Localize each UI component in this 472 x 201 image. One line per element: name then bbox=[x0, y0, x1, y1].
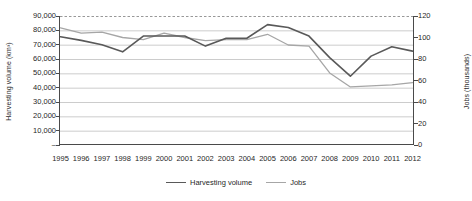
y-axis-left-line bbox=[59, 16, 60, 145]
y-axis-right-tick-mark bbox=[414, 123, 418, 124]
y-axis-left-tick-label: 80,000 bbox=[12, 25, 56, 34]
series-line-harvesting-volume bbox=[61, 25, 413, 77]
y-axis-right-tick-label: 40 bbox=[418, 97, 458, 106]
chart-svg bbox=[60, 16, 413, 145]
y-axis-left-tick-mark bbox=[56, 30, 60, 31]
y-axis-right-tick-mark bbox=[414, 102, 418, 103]
y-axis-left-tick-label: 20,000 bbox=[12, 111, 56, 120]
legend-line-icon bbox=[266, 182, 286, 183]
series-line-jobs bbox=[61, 28, 413, 87]
y-axis-left-tick-mark bbox=[56, 102, 60, 103]
y-axis-right-tick-mark bbox=[414, 145, 418, 146]
y-axis-left-tick-label: 40,000 bbox=[12, 83, 56, 92]
y-axis-right-ticks: 020406080100120 bbox=[418, 0, 458, 201]
y-axis-left-title: Harvesting volume (km³) bbox=[5, 30, 12, 134]
legend-item-label: Jobs bbox=[290, 178, 306, 187]
y-axis-left-tick-mark bbox=[56, 87, 60, 88]
x-axis-tick-label: 2012 bbox=[400, 154, 426, 163]
legend-item[interactable]: Jobs bbox=[266, 178, 306, 187]
y-axis-right-tick-label: 80 bbox=[418, 54, 458, 63]
y-axis-left-tick-mark bbox=[56, 116, 60, 117]
y-axis-right-tick-mark bbox=[414, 16, 418, 17]
y-axis-left-tick-label: 70,000 bbox=[12, 40, 56, 49]
y-axis-right-tick-mark bbox=[414, 80, 418, 81]
y-axis-left-tick-mark bbox=[56, 16, 60, 17]
y-axis-right-tick-label: 0 bbox=[418, 140, 458, 149]
legend-item[interactable]: Harvesting volume bbox=[166, 178, 252, 187]
y-axis-left-ticks: –10,00020,00030,00040,00050,00060,00070,… bbox=[12, 0, 56, 201]
y-axis-right-tick-mark bbox=[414, 59, 418, 60]
y-axis-left-tick-mark bbox=[56, 59, 60, 60]
y-axis-left-tick-label: 50,000 bbox=[12, 68, 56, 77]
y-axis-left-tick-label: – bbox=[12, 140, 56, 149]
y-axis-left-tick-label: 10,000 bbox=[12, 126, 56, 135]
y-axis-left-tick-mark bbox=[56, 130, 60, 131]
y-axis-right-tick-label: 100 bbox=[418, 33, 458, 42]
y-axis-left-tick-mark bbox=[56, 145, 60, 146]
y-axis-left-tick-label: 60,000 bbox=[12, 54, 56, 63]
chart-container: Harvesting volume (km³) –10,00020,00030,… bbox=[0, 0, 472, 201]
legend-line-icon bbox=[166, 182, 186, 183]
y-axis-right-tick-label: 60 bbox=[418, 76, 458, 85]
y-axis-right-tick-label: 120 bbox=[418, 11, 458, 20]
y-axis-right-tick-label: 20 bbox=[418, 119, 458, 128]
chart-legend: Harvesting volumeJobs bbox=[0, 178, 472, 187]
plot-area bbox=[60, 16, 413, 145]
x-axis-ticks: 1995199619971998199920002001200220032004… bbox=[60, 150, 413, 164]
legend-item-label: Harvesting volume bbox=[190, 178, 252, 187]
y-axis-left-tick-mark bbox=[56, 73, 60, 74]
y-axis-right-tick-mark bbox=[414, 37, 418, 38]
y-axis-left-tick-label: 30,000 bbox=[12, 97, 56, 106]
y-axis-right-title: Jobs (thousands) bbox=[463, 30, 470, 134]
y-axis-left-tick-mark bbox=[56, 44, 60, 45]
y-axis-left-tick-label: 90,000 bbox=[12, 11, 56, 20]
